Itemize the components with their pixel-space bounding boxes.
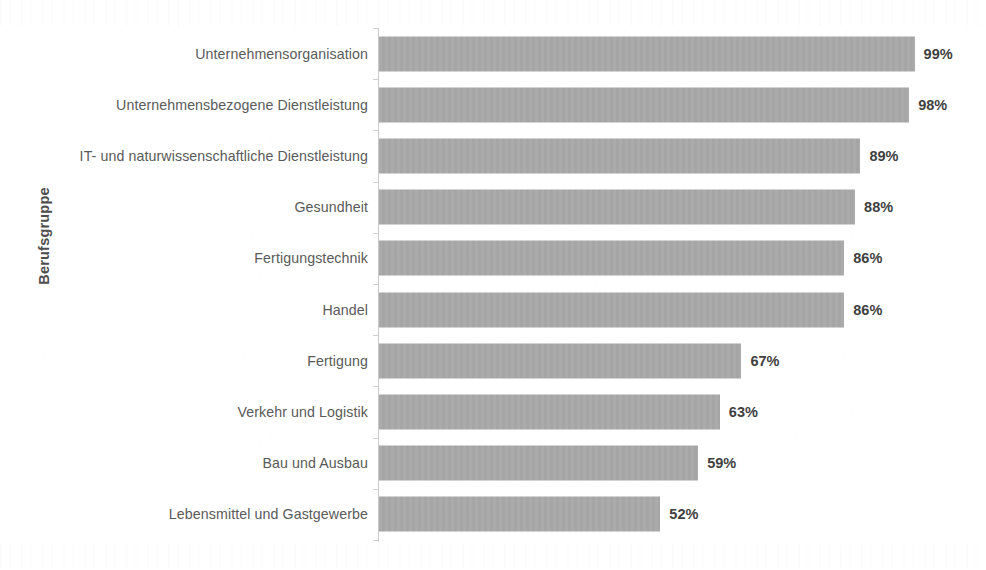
bar [379, 292, 844, 327]
category-label: Bau und Ausbau [262, 455, 368, 471]
bar-value-label: 98% [918, 97, 947, 113]
bar [379, 446, 698, 481]
category-label: IT- und naturwissenschaftliche Dienstlei… [80, 148, 368, 164]
bar-row: Fertigungstechnik86% [0, 233, 986, 284]
bar [379, 138, 860, 173]
bar-row: Fertigung67% [0, 335, 986, 386]
category-label: Gesundheit [294, 199, 368, 215]
bar-texture [379, 497, 660, 532]
category-label: Fertigungstechnik [254, 250, 368, 266]
bar-texture [379, 36, 915, 71]
bar [379, 190, 855, 225]
bar [379, 36, 915, 71]
plot-area: Unternehmensorganisation99%Unternehmensb… [0, 0, 986, 570]
bar-value-label: 86% [853, 250, 882, 266]
bar-texture [379, 394, 720, 429]
bar-value-label: 89% [869, 148, 898, 164]
category-label: Unternehmensorganisation [195, 46, 368, 62]
bar-value-label: 59% [707, 455, 736, 471]
bar-row: IT- und naturwissenschaftliche Dienstlei… [0, 130, 986, 181]
category-label: Verkehr und Logistik [237, 404, 368, 420]
bar [379, 87, 909, 122]
bar-texture [379, 87, 909, 122]
bar-texture [379, 241, 844, 276]
bar-chart: Berufsgruppe Unternehmensorganisation99%… [0, 0, 986, 570]
bar [379, 241, 844, 276]
category-label: Lebensmittel und Gastgewerbe [169, 506, 368, 522]
category-label: Handel [322, 302, 368, 318]
bar-value-label: 67% [750, 353, 779, 369]
bar-texture [379, 190, 855, 225]
bar-row: Unternehmensorganisation99% [0, 28, 986, 79]
category-label: Fertigung [307, 353, 368, 369]
bar-row: Bau und Ausbau59% [0, 438, 986, 489]
bar [379, 394, 720, 429]
bar-texture [379, 343, 741, 378]
bar-value-label: 63% [729, 404, 758, 420]
bar-value-label: 52% [669, 506, 698, 522]
bar [379, 343, 741, 378]
y-axis-tick [373, 540, 378, 541]
bar-row: Verkehr und Logistik63% [0, 386, 986, 437]
bar-texture [379, 138, 860, 173]
bar-row: Handel86% [0, 284, 986, 335]
category-label: Unternehmensbezogene Dienstleistung [116, 97, 368, 113]
bar-texture [379, 446, 698, 481]
bar-value-label: 86% [853, 302, 882, 318]
bar-value-label: 88% [864, 199, 893, 215]
bar-row: Lebensmittel und Gastgewerbe52% [0, 489, 986, 540]
bar-row: Unternehmensbezogene Dienstleistung98% [0, 79, 986, 130]
bar-value-label: 99% [924, 46, 953, 62]
bar-texture [379, 292, 844, 327]
bar-row: Gesundheit88% [0, 182, 986, 233]
bar [379, 497, 660, 532]
